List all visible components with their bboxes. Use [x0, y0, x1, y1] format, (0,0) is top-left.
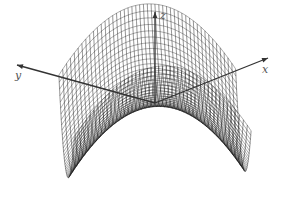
surface-mesh-line: [72, 89, 249, 160]
z-axis-label: z: [160, 10, 166, 21]
surface-mesh-line: [71, 97, 248, 168]
surface-mesh-line: [68, 106, 245, 177]
z-axis-arrowhead-icon: [153, 12, 158, 18]
x-axis-label: x: [262, 64, 268, 75]
saddle-surface-figure: [0, 0, 284, 212]
surface-mesh-line: [143, 4, 159, 107]
y-axis-label: y: [15, 70, 21, 81]
surface-mesh-line: [66, 102, 243, 173]
surface-mesh-line: [72, 94, 249, 165]
x-axis-line: [155, 58, 268, 103]
surface-mesh-line: [70, 105, 247, 176]
x-axis-arrowhead-icon: [262, 58, 268, 62]
